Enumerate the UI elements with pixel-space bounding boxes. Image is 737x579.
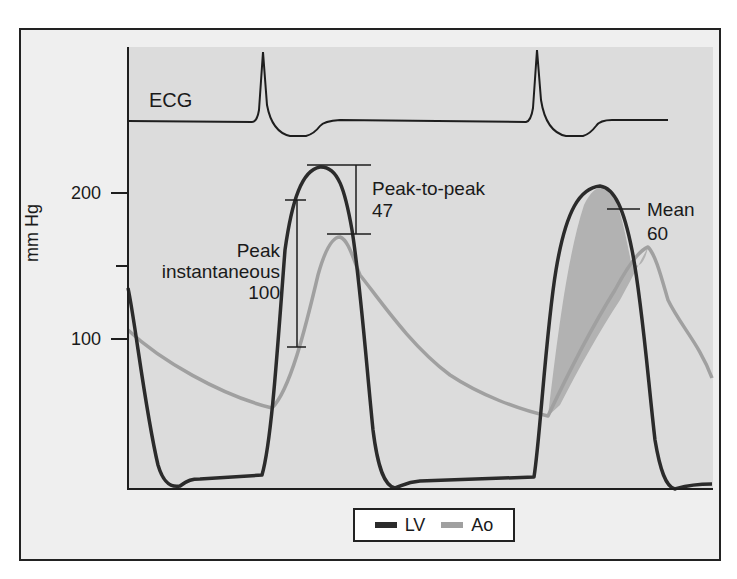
legend-label-ao: Ao [471, 515, 493, 536]
peak-to-peak-value: 47 [372, 200, 393, 221]
mean-title: Mean [647, 199, 695, 220]
chart-legend: LV Ao [353, 508, 515, 542]
peak-instantaneous-title: Peak instantaneous 100 [140, 240, 280, 303]
ao-swatch-icon [441, 522, 463, 528]
tick-label-100: 100 [51, 329, 101, 350]
y-axis-label: mm Hg [22, 204, 43, 262]
mean-value: 60 [647, 223, 668, 244]
lv-swatch-icon [375, 522, 397, 528]
legend-item-lv: LV [375, 515, 426, 536]
tick-label-200: 200 [51, 183, 101, 204]
legend-label-lv: LV [405, 515, 426, 536]
peak-instantaneous-line2: instantaneous [140, 261, 280, 282]
legend-item-ao: Ao [441, 515, 493, 536]
peak-instantaneous-value: 100 [140, 282, 280, 303]
chart-plot [0, 0, 737, 579]
peak-to-peak-title: Peak-to-peak [372, 178, 485, 199]
peak-instantaneous-line1: Peak [140, 240, 280, 261]
ecg-label: ECG [149, 90, 192, 111]
